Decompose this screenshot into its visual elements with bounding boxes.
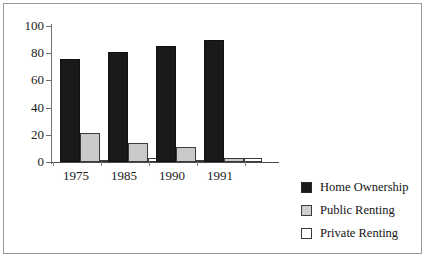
legend-label-public-renting: Public Renting <box>320 203 395 218</box>
y-axis-tick-label: 40 <box>10 101 44 114</box>
x-axis-tick <box>197 162 198 166</box>
y-axis-tick-label: 80 <box>10 46 44 59</box>
legend-swatch-private-renting <box>301 228 312 239</box>
legend-label-home-ownership: Home Ownership <box>320 180 409 195</box>
y-axis-tick-label: 0 <box>10 155 44 168</box>
y-axis-labels: 020406080100 <box>4 4 44 184</box>
bar <box>60 59 80 162</box>
bar-group <box>204 26 264 162</box>
legend-swatch-public-renting <box>301 205 312 216</box>
bar <box>128 143 148 162</box>
bar <box>176 147 196 162</box>
bar <box>108 52 128 162</box>
bar <box>244 158 262 162</box>
bar <box>156 46 176 162</box>
bar <box>80 133 100 162</box>
x-axis-tick <box>245 162 246 166</box>
legend-item-public-renting: Public Renting <box>301 199 419 222</box>
legend-swatch-home-ownership <box>301 182 312 193</box>
legend-item-private-renting: Private Renting <box>301 222 419 245</box>
y-axis-tick-label: 100 <box>10 19 44 32</box>
y-axis-tick-label: 60 <box>10 73 44 86</box>
chart-frame: 020406080100 1975198519901991 Home Owner… <box>3 3 422 254</box>
x-axis-tick-label: 1990 <box>148 168 196 183</box>
bar <box>204 40 224 162</box>
x-axis-tick <box>53 162 54 166</box>
plot-area <box>51 26 276 162</box>
x-axis-tick-label: 1985 <box>100 168 148 183</box>
x-axis-tick-label: 1975 <box>52 168 100 183</box>
bar <box>224 158 244 162</box>
x-axis-tick <box>149 162 150 166</box>
y-axis-tick-label: 20 <box>10 128 44 141</box>
chart-legend: Home Ownership Public Renting Private Re… <box>301 176 419 245</box>
x-axis-tick <box>101 162 102 166</box>
x-axis-tick-label: 1991 <box>196 168 244 183</box>
legend-item-home-ownership: Home Ownership <box>301 176 419 199</box>
legend-label-private-renting: Private Renting <box>320 226 398 241</box>
